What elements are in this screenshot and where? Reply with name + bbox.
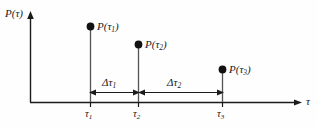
data-point-label-2: P(τ2)	[145, 39, 167, 51]
x-tick-label-3-sub: 3	[221, 113, 225, 121]
y-axis-label: P(τ)	[5, 8, 23, 19]
x-axis-arrowhead-icon	[294, 99, 302, 105]
diagram-canvas	[0, 0, 318, 127]
data-point-label-2-text: P(τ	[145, 38, 159, 50]
interval-arrow-1	[89, 90, 140, 96]
data-point-label-1: P(τ1)	[97, 21, 119, 33]
interval-label-2-sub: 2	[177, 81, 181, 90]
data-point-label-3: P(τ3)	[229, 64, 251, 76]
x-tick-label-1-sub: 1	[89, 113, 93, 121]
impulse-diagram: P(τ) τ P(τ1) P(τ2) P(τ3) Δτ1 Δτ2 τ1 τ2 τ…	[0, 0, 318, 127]
data-point-label-2-close: )	[163, 38, 167, 50]
data-point-label-3-close: )	[247, 63, 251, 75]
x-axis-label: τ	[306, 96, 310, 107]
interval-label-2-text: Δτ	[167, 76, 177, 88]
data-point-label-1-close: )	[115, 20, 119, 32]
data-point-label-1-text: P(τ	[97, 20, 111, 32]
x-tick-label-2-sub: 2	[137, 113, 141, 121]
x-tick-label-2: τ2	[133, 109, 140, 121]
x-tick-label-3: τ3	[217, 109, 224, 121]
interval-arrow-2	[138, 90, 224, 96]
data-point-1	[87, 23, 95, 31]
data-point-label-3-text: P(τ	[229, 63, 243, 75]
x-tick-label-1: τ1	[85, 109, 92, 121]
interval-label-1: Δτ1	[102, 77, 116, 89]
data-point-2	[135, 41, 143, 49]
interval-label-1-sub: 1	[112, 81, 116, 90]
interval-label-1-text: Δτ	[102, 76, 112, 88]
interval-label-2: Δτ2	[167, 77, 181, 89]
y-axis-arrowhead-icon	[27, 11, 34, 19]
data-point-3	[219, 66, 227, 74]
